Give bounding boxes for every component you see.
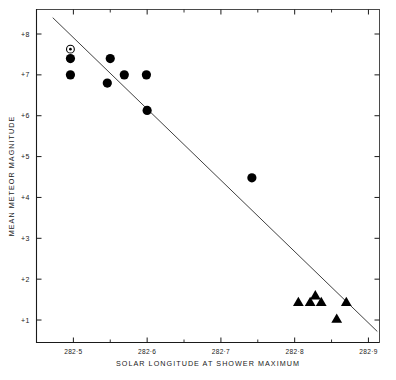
data-point-triangle [293,297,304,306]
x-tick-label-282·5: 282·5 [64,348,82,355]
plot-canvas: +1+2+3+4+5+6+7+8 282·5282·6282·7282·8282… [0,0,396,380]
x-tick-label-282·9: 282·9 [359,348,377,355]
data-point-triangle [331,313,342,322]
y-tick-label-+3: +3 [21,235,29,242]
y-axis-title: MEAN METEOR MAGNITUDE [7,116,16,237]
x-axis-minor-tick-group [110,10,331,343]
data-point-circle [247,173,256,182]
data-point-triangle [310,290,321,299]
plot-frame [36,9,380,343]
x-tick-label-282·7: 282·7 [212,348,230,355]
x-tick-label-282·6: 282·6 [138,348,156,355]
y-tick-label-+4: +4 [21,194,29,201]
y-tick-label-+7: +7 [21,71,29,78]
data-point-circle [66,70,75,79]
meteor-magnitude-scatter-figure: +1+2+3+4+5+6+7+8 282·5282·6282·7282·8282… [0,0,396,380]
regression-fit-line [53,18,378,332]
regression-line-group [53,18,378,332]
x-axis-title: SOLAR LONGITUDE AT SHOWER MAXIMUM [116,359,300,368]
data-point-circle [120,70,129,79]
data-series-filled-triangles [293,290,352,323]
y-axis-tick-group-left [37,34,42,320]
data-point-circle [106,54,115,63]
y-tick-label-+8: +8 [21,31,29,38]
data-series-filled-circles [66,54,257,183]
data-point-circle [103,78,112,87]
y-tick-label-+2: +2 [21,276,29,283]
x-axis-tick-group-top [73,10,368,15]
y-tick-label-+5: +5 [21,153,29,160]
data-point-circle [143,106,152,115]
data-point-sun-dot [69,48,72,51]
x-axis-tick-group-bottom [73,338,368,343]
data-point-circle [66,54,75,63]
data-series-sun-symbol [67,45,75,53]
y-tick-label-+6: +6 [21,112,29,119]
y-axis-tick-label-group: +1+2+3+4+5+6+7+8 [21,31,29,324]
y-tick-label-+1: +1 [21,317,29,324]
y-axis-tick-group-right [375,34,380,320]
data-point-circle [142,70,151,79]
x-axis-tick-label-group: 282·5282·6282·7282·8282·9 [64,348,377,355]
x-tick-label-282·8: 282·8 [285,348,303,355]
